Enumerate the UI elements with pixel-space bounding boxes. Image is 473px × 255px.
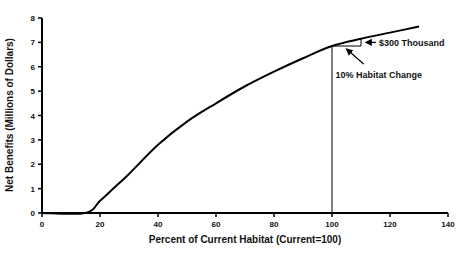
habitat-arrow bbox=[347, 49, 364, 64]
x-tick-label: 60 bbox=[212, 220, 221, 229]
x-axis-label: Percent of Current Habitat (Current=100) bbox=[149, 234, 342, 245]
y-tick-label: 1 bbox=[31, 185, 36, 194]
x-tick-label: 100 bbox=[325, 220, 339, 229]
reference-lines bbox=[332, 39, 361, 213]
y-tick-label: 4 bbox=[31, 112, 36, 121]
y-tick-label: 7 bbox=[31, 38, 36, 47]
x-tick-label: 20 bbox=[96, 220, 105, 229]
annotations: $300 Thousand10% Habitat Change bbox=[336, 38, 445, 80]
annotation-habitat: 10% Habitat Change bbox=[336, 70, 423, 80]
x-tick-label: 120 bbox=[383, 220, 397, 229]
y-tick-label: 2 bbox=[31, 160, 36, 169]
y-axis-label: Net Benefits (Millions of Dollars) bbox=[4, 38, 15, 192]
y-tick-label: 5 bbox=[31, 87, 36, 96]
annotation-dollars: $300 Thousand bbox=[379, 38, 445, 48]
y-tick-label: 8 bbox=[31, 14, 36, 23]
x-tick-label: 140 bbox=[441, 220, 455, 229]
chart: 012345678020406080100120140 $300 Thousan… bbox=[0, 0, 473, 255]
data-series bbox=[42, 27, 419, 214]
net-benefits-line bbox=[42, 27, 419, 214]
y-tick-label: 0 bbox=[31, 209, 36, 218]
x-tick-label: 80 bbox=[270, 220, 279, 229]
y-tick-label: 3 bbox=[31, 136, 36, 145]
x-tick-label: 40 bbox=[154, 220, 163, 229]
x-tick-label: 0 bbox=[40, 220, 45, 229]
y-tick-label: 6 bbox=[31, 63, 36, 72]
